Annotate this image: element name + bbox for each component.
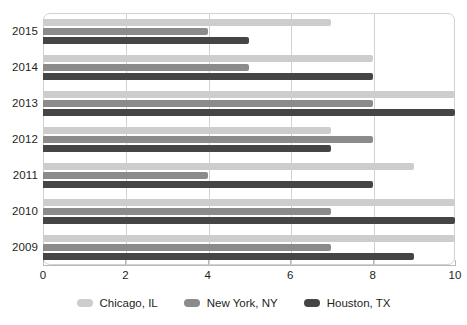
bar[interactable] — [43, 217, 455, 224]
y-axis-tick-label: 2015 — [0, 25, 38, 37]
bar[interactable] — [43, 109, 455, 116]
bar[interactable] — [43, 37, 249, 44]
bar[interactable] — [43, 55, 373, 62]
x-axis-tick-label: 0 — [40, 269, 46, 281]
bar[interactable] — [43, 253, 414, 260]
bar[interactable] — [43, 91, 455, 98]
legend-item[interactable]: Houston, TX — [304, 297, 391, 309]
bar[interactable] — [43, 100, 373, 107]
x-axis-tick — [125, 260, 126, 266]
bars-layer — [43, 13, 455, 265]
x-axis-tick-label: 6 — [287, 269, 293, 281]
legend-label: Houston, TX — [327, 297, 391, 309]
chart-legend: Chicago, ILNew York, NYHouston, TX — [0, 297, 467, 309]
x-axis-tick — [373, 260, 374, 266]
bar[interactable] — [43, 73, 373, 80]
bar[interactable] — [43, 199, 455, 206]
legend-label: New York, NY — [207, 297, 278, 309]
x-axis-tick — [43, 260, 44, 266]
bar[interactable] — [43, 208, 331, 215]
legend-swatch-chicago — [77, 299, 93, 307]
x-axis-tick — [208, 260, 209, 266]
bar[interactable] — [43, 64, 249, 71]
bar[interactable] — [43, 19, 331, 26]
bar[interactable] — [43, 127, 331, 134]
x-axis-tick-label: 10 — [449, 269, 462, 281]
x-axis-tick — [290, 260, 291, 266]
y-axis-tick-label: 2013 — [0, 97, 38, 109]
legend-swatch-houston — [304, 299, 320, 307]
x-axis-tick — [455, 260, 456, 266]
y-axis-tick-label: 2012 — [0, 133, 38, 145]
legend-item[interactable]: New York, NY — [184, 297, 278, 309]
bar[interactable] — [43, 181, 373, 188]
bar[interactable] — [43, 244, 331, 251]
x-axis-tick-label: 4 — [205, 269, 211, 281]
y-axis-tick-label: 2010 — [0, 205, 38, 217]
legend-label: Chicago, IL — [100, 297, 158, 309]
bar[interactable] — [43, 28, 208, 35]
legend-item[interactable]: Chicago, IL — [77, 297, 158, 309]
y-axis-tick-label: 2014 — [0, 61, 38, 73]
y-axis: 2015201420132012201120102009 — [0, 13, 38, 265]
y-axis-tick-label: 2009 — [0, 241, 38, 253]
x-axis-tick-label: 8 — [369, 269, 375, 281]
y-axis-tick-label: 2011 — [0, 169, 38, 181]
bar[interactable] — [43, 235, 455, 242]
x-axis-tick-label: 2 — [122, 269, 128, 281]
bar[interactable] — [43, 136, 373, 143]
legend-swatch-new-york — [184, 299, 200, 307]
bar[interactable] — [43, 172, 208, 179]
bar[interactable] — [43, 163, 414, 170]
bar-chart: 2015201420132012201120102009 0246810 Chi… — [0, 0, 467, 325]
bar[interactable] — [43, 145, 331, 152]
x-axis-line — [43, 265, 455, 266]
